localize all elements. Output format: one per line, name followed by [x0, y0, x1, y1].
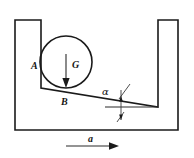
label-angle-alpha: α [102, 86, 109, 97]
physics-figure: A B G α a [0, 0, 194, 158]
acceleration-arrow-head [109, 142, 119, 150]
weight-arrow-head [62, 78, 69, 88]
label-acceleration-a: a [88, 133, 93, 144]
physics-diagram-svg: A B G α a [0, 0, 194, 158]
angle-span-arrowhead-bottom [119, 115, 123, 121]
label-point-b: B [60, 96, 68, 107]
label-weight-g: G [72, 59, 80, 70]
label-point-a: A [30, 60, 38, 71]
container-outline [15, 20, 178, 130]
